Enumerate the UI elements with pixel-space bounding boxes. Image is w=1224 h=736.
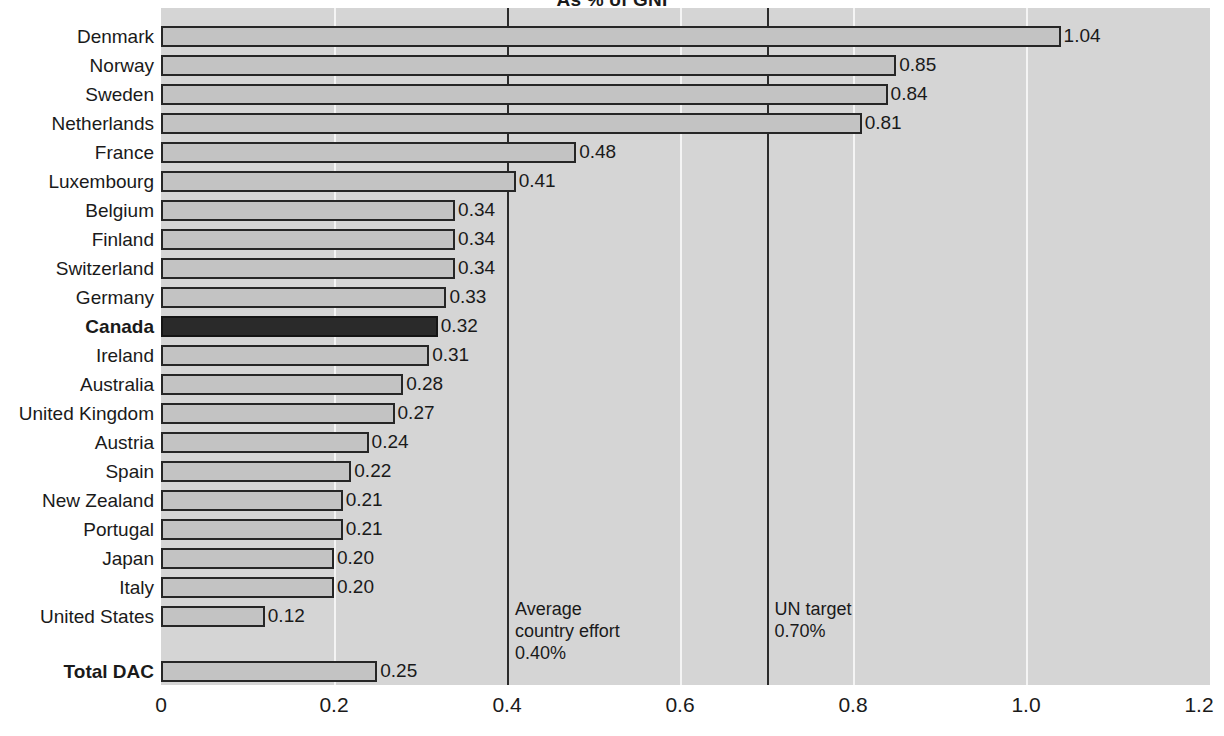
bar-france: [161, 142, 576, 163]
average-country-effort-note-line: Average: [515, 598, 620, 620]
bar-australia: [161, 374, 403, 395]
bar-label-spain: Spain: [105, 457, 154, 486]
un-target-note-line: 0.70%: [775, 620, 852, 642]
bar-value-canada: 0.32: [438, 312, 478, 341]
bar-label-germany: Germany: [76, 283, 154, 312]
bar-row: Switzerland0.34: [0, 254, 1224, 283]
bar-austria: [161, 432, 369, 453]
bar-label-switzerland: Switzerland: [56, 254, 154, 283]
bar-total-dac: [161, 661, 377, 682]
bar-germany: [161, 287, 446, 308]
bar-value-united-states: 0.12: [265, 602, 305, 631]
bar-value-austria: 0.24: [369, 428, 409, 457]
bar-row: Belgium0.34: [0, 196, 1224, 225]
bar-sweden: [161, 84, 888, 105]
x-tick-label-0.8: 0.8: [838, 693, 867, 717]
bar-label-italy: Italy: [119, 573, 154, 602]
bar-value-portugal: 0.21: [343, 515, 383, 544]
average-country-effort-note-line: 0.40%: [515, 642, 620, 664]
bar-norway: [161, 55, 896, 76]
average-country-effort-note-line: country effort: [515, 620, 620, 642]
bar-label-austria: Austria: [95, 428, 154, 457]
bar-denmark: [161, 26, 1061, 47]
bar-label-ireland: Ireland: [96, 341, 154, 370]
bar-row: Australia0.28: [0, 370, 1224, 399]
x-tick-label-0: 0: [155, 693, 167, 717]
bar-value-germany: 0.33: [446, 283, 486, 312]
x-tick-label-1.2: 1.2: [1184, 693, 1213, 717]
bar-label-france: France: [95, 138, 154, 167]
bar-value-total-dac: 0.25: [377, 657, 417, 686]
bar-label-australia: Australia: [80, 370, 154, 399]
bar-row: Finland0.34: [0, 225, 1224, 254]
un-target-note: UN target0.70%: [775, 598, 852, 642]
bar-italy: [161, 577, 334, 598]
bar-value-sweden: 0.84: [888, 80, 928, 109]
bar-label-united-kingdom: United Kingdom: [19, 399, 154, 428]
bar-label-denmark: Denmark: [77, 22, 154, 51]
bar-ireland: [161, 345, 429, 366]
bar-value-united-kingdom: 0.27: [395, 399, 435, 428]
bar-label-united-states: United States: [40, 602, 154, 631]
bar-row: New Zealand0.21: [0, 486, 1224, 515]
bar-value-belgium: 0.34: [455, 196, 495, 225]
bar-value-denmark: 1.04: [1061, 22, 1101, 51]
bar-label-japan: Japan: [102, 544, 154, 573]
bar-row: Ireland0.31: [0, 341, 1224, 370]
bar-value-new-zealand: 0.21: [343, 486, 383, 515]
un-target-note-line: UN target: [775, 598, 852, 620]
bar-label-total-dac: Total DAC: [64, 657, 154, 686]
bar-canada: [161, 316, 438, 337]
bar-netherlands: [161, 113, 862, 134]
bar-spain: [161, 461, 351, 482]
bar-row: Japan0.20: [0, 544, 1224, 573]
bar-row: United Kingdom0.27: [0, 399, 1224, 428]
bar-value-spain: 0.22: [351, 457, 391, 486]
bar-label-new-zealand: New Zealand: [42, 486, 154, 515]
bar-switzerland: [161, 258, 455, 279]
bar-value-norway: 0.85: [896, 51, 936, 80]
bar-row: Portugal0.21: [0, 515, 1224, 544]
bar-value-australia: 0.28: [403, 370, 443, 399]
bar-japan: [161, 548, 334, 569]
bar-new-zealand: [161, 490, 343, 511]
bar-row: Netherlands0.81: [0, 109, 1224, 138]
bar-row: Denmark1.04: [0, 22, 1224, 51]
bar-value-netherlands: 0.81: [862, 109, 902, 138]
bar-row: Sweden0.84: [0, 80, 1224, 109]
bar-label-netherlands: Netherlands: [52, 109, 154, 138]
x-tick-label-0.6: 0.6: [665, 693, 694, 717]
bar-portugal: [161, 519, 343, 540]
average-country-effort-note: Averagecountry effort0.40%: [515, 598, 620, 664]
bar-value-finland: 0.34: [455, 225, 495, 254]
bar-label-belgium: Belgium: [85, 196, 154, 225]
bar-row: Germany0.33: [0, 283, 1224, 312]
bar-value-france: 0.48: [576, 138, 616, 167]
bar-belgium: [161, 200, 455, 221]
bar-value-japan: 0.20: [334, 544, 374, 573]
bar-row: Spain0.22: [0, 457, 1224, 486]
bar-label-canada: Canada: [85, 312, 154, 341]
bar-row: Austria0.24: [0, 428, 1224, 457]
bar-label-luxembourg: Luxembourg: [48, 167, 154, 196]
x-axis: 00.20.40.60.81.01.2: [0, 685, 1224, 736]
bar-united-kingdom: [161, 403, 395, 424]
bar-row: Norway0.85: [0, 51, 1224, 80]
bar-value-luxembourg: 0.41: [516, 167, 556, 196]
bar-finland: [161, 229, 455, 250]
x-tick-label-0.4: 0.4: [492, 693, 521, 717]
bar-label-portugal: Portugal: [83, 515, 154, 544]
bar-label-finland: Finland: [92, 225, 154, 254]
bar-row: Luxembourg0.41: [0, 167, 1224, 196]
bar-label-sweden: Sweden: [85, 80, 154, 109]
bar-row: France0.48: [0, 138, 1224, 167]
x-tick-label-1.0: 1.0: [1011, 693, 1040, 717]
bar-united-states: [161, 606, 265, 627]
bar-label-norway: Norway: [90, 51, 154, 80]
bar-value-switzerland: 0.34: [455, 254, 495, 283]
x-tick-label-0.2: 0.2: [319, 693, 348, 717]
bar-row: Canada0.32: [0, 312, 1224, 341]
bar-value-ireland: 0.31: [429, 341, 469, 370]
bar-value-italy: 0.20: [334, 573, 374, 602]
bar-luxembourg: [161, 171, 516, 192]
